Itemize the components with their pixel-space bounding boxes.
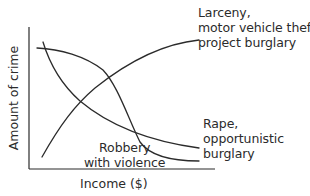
y-axis-label: Amount of crime [6,46,21,150]
curve-rape-opportunistic-burglary [43,42,199,148]
label-robbery-line-2: with violence [84,155,165,170]
label-larceny-line-3: project burglary [198,35,310,50]
label-larceny: Larceny, motor vehicle theft, project bu… [198,5,310,50]
label-rape-line-3: burglary [203,146,284,161]
label-larceny-line-1: Larceny, [198,5,310,20]
label-rape: Rape, opportunistic burglary [203,116,284,161]
x-axis-label: Income ($) [80,176,148,191]
label-robbery: Robbery with violence [84,140,165,170]
label-robbery-line-1: Robbery [84,140,165,155]
label-rape-line-1: Rape, [203,116,284,131]
label-rape-line-2: opportunistic [203,131,284,146]
label-larceny-line-2: motor vehicle theft, [198,20,310,35]
